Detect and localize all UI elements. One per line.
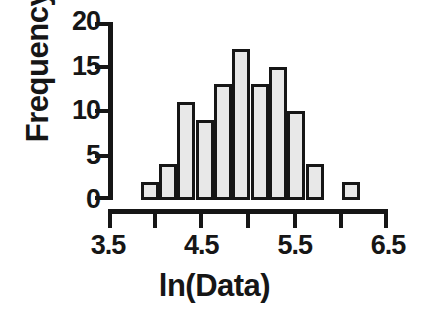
y-axis-tick-label: 20	[54, 8, 100, 35]
x-axis-tick-labels: 3.54.55.56.5	[0, 232, 429, 272]
x-axis-tick-label: 3.5	[63, 232, 153, 259]
histogram-bar	[196, 120, 214, 200]
x-axis-tick-mark	[108, 209, 112, 228]
x-axis-tick-mark	[246, 209, 250, 228]
histogram-bar	[287, 111, 305, 200]
histogram-figure: Frequency 05101520 3.54.55.56.5 ln(Data)	[0, 0, 429, 322]
histogram-bar	[251, 84, 269, 200]
y-axis-tick-label: 5	[54, 142, 100, 169]
y-axis-tick-mark	[95, 65, 109, 69]
y-axis-tick-mark	[95, 196, 109, 200]
histogram-bar	[177, 102, 195, 200]
x-axis-tick-mark	[293, 209, 297, 228]
histogram-bar	[159, 164, 177, 200]
y-axis-title: Frequency	[20, 0, 56, 156]
histogram-bar	[269, 67, 287, 201]
histogram-bar	[342, 182, 360, 200]
x-axis-title: ln(Data)	[0, 268, 429, 304]
y-axis-tick-mark	[95, 154, 109, 158]
x-axis-tick-label: 6.5	[343, 232, 429, 259]
x-axis-tick-label: 5.5	[250, 232, 340, 259]
histogram-bar	[232, 49, 250, 200]
y-axis-tick-label: 10	[54, 97, 100, 124]
x-axis-tick-mark	[199, 209, 203, 228]
x-axis-tick-label: 4.5	[156, 232, 246, 259]
histogram-bar	[306, 164, 324, 200]
y-axis-tick-label: 15	[54, 53, 100, 80]
histogram-bar	[141, 182, 159, 200]
histogram-bar	[214, 84, 232, 200]
y-axis-tick-label: 0	[54, 186, 100, 213]
x-axis-tick-mark	[153, 209, 157, 228]
plot-area	[108, 22, 380, 200]
y-axis-tick-mark	[95, 109, 109, 113]
histogram-bars	[113, 22, 380, 200]
y-axis-tick-mark	[95, 22, 109, 26]
x-axis-tick-mark	[384, 209, 388, 228]
x-axis-tick-mark	[339, 209, 343, 228]
